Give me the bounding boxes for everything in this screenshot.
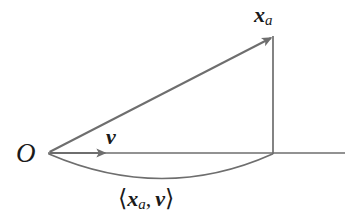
inner-product-comma: , xyxy=(146,186,152,211)
inner-product-label: ⟨xa,v⟩ xyxy=(118,187,174,212)
inner-product-x-subscript: a xyxy=(138,196,145,212)
vector-xa-label: xa xyxy=(254,4,272,28)
vector-v-label: v xyxy=(106,126,116,148)
vector-v-symbol: v xyxy=(106,124,116,149)
vector-xa-arrow xyxy=(50,38,272,152)
figure-container: O xa v ⟨xa,v⟩ xyxy=(0,0,356,224)
diagram-canvas xyxy=(0,0,356,224)
inner-product-arc xyxy=(49,154,273,179)
vector-xa-base-symbol: x xyxy=(254,2,265,27)
vector-xa-subscript: a xyxy=(265,12,272,28)
angle-bracket-close-icon: ⟩ xyxy=(165,185,174,211)
inner-product-x-symbol: x xyxy=(127,186,138,211)
angle-bracket-open-icon: ⟨ xyxy=(118,185,127,211)
inner-product-v-symbol: v xyxy=(155,186,165,211)
origin-label: O xyxy=(16,140,36,167)
